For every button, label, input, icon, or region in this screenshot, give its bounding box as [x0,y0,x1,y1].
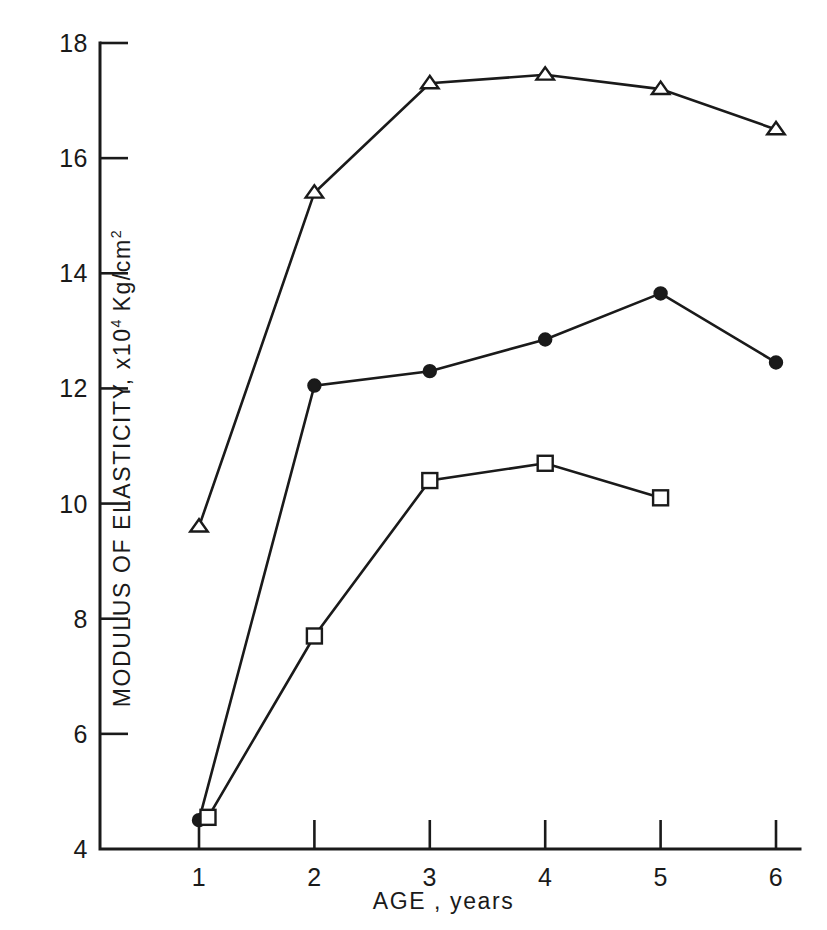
y-tick-label-16: 16 [59,144,88,172]
x-axis-ticks [199,820,776,849]
x-tick-label-1: 1 [192,863,206,891]
marker-series-filled-circle-6 [770,356,782,368]
x-axis-label-text: AGE , years [373,888,515,915]
marker-series-filled-circle-3 [424,365,436,377]
marker-series-filled-circle-5 [654,287,666,299]
y-tick-label-18: 18 [59,29,88,57]
marker-series-filled-circle-2 [308,379,320,391]
y-tick-label-12: 12 [59,374,88,402]
y-axis-label-text: MODULUS OF ELASTICITY, x10 [109,327,135,707]
marker-series-open-square-3 [422,473,437,488]
x-tick-label-2: 2 [307,863,321,891]
x-tick-label-3: 3 [423,863,437,891]
axes [100,43,800,849]
y-tick-label-8: 8 [74,605,88,633]
y-tick-label-6: 6 [74,720,88,748]
y-axis-label-exponent: 4 [108,319,124,327]
y-tick-label-14: 14 [59,259,88,287]
x-tick-label-4: 4 [538,863,552,891]
x-tick-label-6: 6 [769,863,783,891]
series-lines [199,75,776,821]
marker-series-triangle-4 [536,67,553,79]
line-series-open-square [208,463,661,817]
axis-lines [100,43,800,849]
y-axis-label-units: Kg/cm [109,238,135,319]
y-axis-label-units-exponent: 2 [108,230,124,238]
chart-figure: 4681012141618 123456 AGE , years MODULUS… [0,0,827,930]
marker-series-open-square-1 [201,810,216,825]
y-tick-label-4: 4 [74,835,88,863]
marker-series-filled-circle-4 [539,333,551,345]
marker-series-open-square-2 [307,628,322,643]
y-tick-label-10: 10 [59,490,88,518]
x-axis-tick-labels: 123456 [192,863,783,891]
y-axis-tick-labels: 4681012141618 [59,29,88,863]
line-series-filled-circle [199,293,776,820]
marker-series-open-square-4 [538,456,553,471]
series-markers [190,67,784,826]
x-axis-label: AGE , years [0,888,827,915]
marker-series-triangle-1 [190,519,207,531]
x-tick-label-5: 5 [653,863,667,891]
marker-series-open-square-5 [653,490,668,505]
line-series-triangle [199,75,776,527]
y-axis-label: MODULUS OF ELASTICITY, x104 Kg/cm2 [108,69,136,869]
